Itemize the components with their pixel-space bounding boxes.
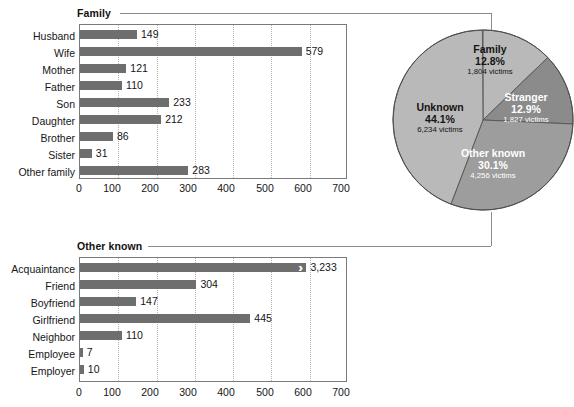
pie-label-unknown: Unknown 44.1% 6,234 victims (392, 102, 488, 134)
connector-other-known-vertical (491, 212, 492, 246)
family-bar-sister (80, 149, 92, 158)
family-bar-other-family (80, 166, 188, 175)
pie-label-family: Family 12.8% 1,804 victims (442, 44, 538, 76)
pie-label-other-known-pct: 30.1% (440, 160, 546, 172)
family-row-label-wife: Wife (0, 48, 75, 59)
other-known-value-friend: 304 (200, 279, 218, 290)
other-row-label-employer: Employer (0, 366, 75, 377)
pie-label-stranger: Stranger 12.9% 1,827 victims (480, 92, 572, 124)
family-row-label-brother: Brother (0, 133, 75, 144)
family-value-wife: 579 (306, 46, 324, 57)
other-known-value-neighbor: 110 (126, 330, 143, 341)
other-known-bar-neighbor (80, 331, 122, 340)
family-bar-wife (80, 47, 302, 56)
other-known-gridline-600 (310, 258, 311, 381)
other-known-bar-girlfriend (80, 314, 250, 323)
other-row-label-acquaintance: Acquaintance (0, 264, 75, 275)
pie-label-family-victims: 1,804 victims (442, 68, 538, 77)
family-xtick-600: 600 (288, 183, 318, 194)
pie-label-unknown-pct: 44.1% (392, 114, 488, 126)
pie-label-family-pct: 12.8% (442, 56, 538, 68)
other-row-label-girlfriend: Girlfriend (0, 315, 75, 326)
other-known-bar-acquaintance (80, 263, 306, 272)
other-known-bar-friend (80, 280, 196, 289)
other-row-label-boyfriend: Boyfriend (0, 298, 75, 309)
panel-title-other-known: Other known (77, 240, 142, 252)
family-xtick-500: 500 (250, 183, 280, 194)
other-xtick-700: 700 (326, 387, 356, 398)
family-value-brother: 86 (117, 131, 129, 142)
family-xtick-0: 0 (64, 183, 94, 194)
connector-other-known-horizontal (148, 246, 491, 247)
family-bar-mother (80, 64, 126, 73)
family-xtick-300: 300 (173, 183, 203, 194)
pie-label-stranger-name: Stranger (480, 92, 572, 104)
other-xtick-0: 0 (64, 387, 94, 398)
other-known-bar-employer (80, 365, 84, 374)
family-value-sister: 31 (96, 148, 108, 159)
other-xtick-200: 200 (135, 387, 165, 398)
pie-label-unknown-name: Unknown (392, 102, 488, 114)
other-known-bar-employee (80, 348, 83, 357)
family-row-label-sister: Sister (0, 150, 75, 161)
pie-label-family-name: Family (442, 44, 538, 56)
family-bar-father (80, 81, 122, 90)
panel-title-family: Family (77, 7, 111, 19)
other-known-value-employer: 10 (88, 364, 100, 375)
other-row-label-employee: Employee (0, 349, 75, 360)
other-known-bar-boyfriend (80, 297, 136, 306)
pie-label-unknown-victims: 6,234 victims (392, 126, 488, 135)
other-known-value-girlfriend: 445 (254, 313, 272, 324)
family-bar-son (80, 98, 169, 107)
family-row-label-father: Father (0, 82, 75, 93)
family-value-other-family: 283 (192, 165, 210, 176)
family-row-label-mother: Mother (0, 65, 75, 76)
other-known-value-employee: 7 (87, 347, 93, 358)
family-row-label-son: Son (0, 99, 75, 110)
other-row-label-neighbor: Neighbor (0, 332, 75, 343)
connector-family-horizontal (120, 13, 491, 14)
pie-label-stranger-victims: 1,827 victims (480, 116, 572, 125)
other-xtick-500: 500 (250, 387, 280, 398)
family-value-son: 233 (173, 97, 191, 108)
family-value-mother: 121 (130, 63, 148, 74)
other-xtick-300: 300 (173, 387, 203, 398)
family-row-label-other-family: Other family (0, 167, 75, 178)
family-row-label-daughter: Daughter (0, 116, 75, 127)
family-xtick-400: 400 (211, 183, 241, 194)
family-value-father: 110 (126, 80, 143, 91)
pie-label-other-known-name: Other known (440, 148, 546, 160)
family-row-label-husband: Husband (0, 31, 75, 42)
other-known-value-boyfriend: 147 (140, 296, 158, 307)
pie-label-other-known: Other known 30.1% 4,256 victims (440, 148, 546, 180)
pie-label-stranger-pct: 12.9% (480, 104, 572, 116)
other-known-value-acquaintance: 3,233 (310, 262, 336, 273)
other-xtick-400: 400 (211, 387, 241, 398)
family-bar-brother (80, 132, 113, 141)
family-bar-husband (80, 30, 137, 39)
family-value-husband: 149 (141, 29, 159, 40)
other-xtick-600: 600 (288, 387, 318, 398)
family-xtick-700: 700 (326, 183, 356, 194)
family-value-daughter: 212 (165, 114, 183, 125)
family-xtick-100: 100 (97, 183, 127, 194)
family-bar-daughter (80, 115, 161, 124)
other-xtick-100: 100 (97, 387, 127, 398)
family-xtick-200: 200 (135, 183, 165, 194)
other-row-label-friend: Friend (0, 281, 75, 292)
other-known-axis-break-marker: › (298, 261, 302, 274)
pie-label-other-known-victims: 4,256 victims (440, 172, 546, 181)
